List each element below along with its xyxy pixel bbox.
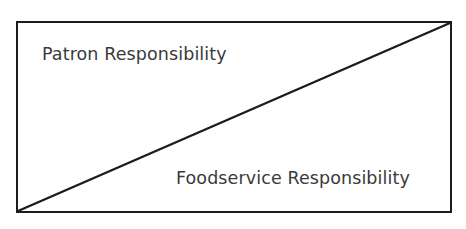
lower-region-label: Foodservice Responsibility bbox=[176, 170, 410, 188]
responsibility-diagram-figure: Patron Responsibility Foodservice Respon… bbox=[0, 0, 466, 229]
upper-region-label: Patron Responsibility bbox=[42, 46, 227, 64]
